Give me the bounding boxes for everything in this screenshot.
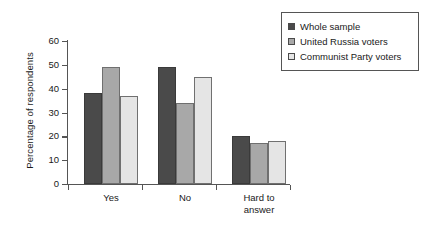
x-axis-label-line: Hard to	[211, 192, 307, 204]
y-axis-tick-label: 20	[33, 130, 59, 141]
bar	[194, 77, 212, 184]
legend-item: Whole sample	[288, 19, 412, 33]
bar	[268, 141, 286, 184]
y-axis-tick-label: 40	[33, 83, 59, 94]
bar-group	[84, 41, 138, 184]
legend-label-communist-party-voters: Communist Party voters	[300, 51, 401, 62]
bar	[176, 103, 194, 184]
x-axis-line	[67, 184, 290, 185]
y-axis-tick	[62, 136, 67, 137]
y-axis-tick-label: 60	[33, 35, 59, 46]
y-axis-tick	[62, 89, 67, 90]
x-axis-separator	[68, 185, 69, 190]
x-axis-separator	[216, 185, 217, 190]
bar	[120, 96, 138, 184]
legend: Whole sample United Russia voters Commun…	[281, 12, 419, 71]
legend-swatch-communist-party-voters	[288, 53, 295, 60]
legend-item: Communist Party voters	[288, 49, 412, 63]
bar	[158, 67, 176, 184]
y-axis-tick	[62, 41, 67, 42]
y-axis-tick	[62, 65, 67, 66]
legend-label-united-russia-voters: United Russia voters	[300, 36, 388, 47]
y-axis-tick	[62, 160, 67, 161]
x-axis-separator	[142, 185, 143, 190]
plot-area	[68, 41, 290, 184]
y-axis-tick-label: 10	[33, 154, 59, 165]
x-axis-separator	[290, 185, 291, 190]
legend-swatch-united-russia-voters	[288, 38, 295, 45]
bar	[232, 136, 250, 184]
y-axis-tick	[62, 184, 67, 185]
bar	[102, 67, 120, 184]
x-axis-label: Hard toanswer	[211, 192, 307, 216]
bar-group	[232, 41, 286, 184]
legend-label-whole-sample: Whole sample	[300, 21, 360, 32]
y-axis-tick-label: 50	[33, 59, 59, 70]
y-axis-tick	[62, 113, 67, 114]
bar-chart: Percentage of respondents 0102030405060 …	[0, 0, 431, 234]
y-axis-tick-label: 30	[33, 107, 59, 118]
legend-swatch-whole-sample	[288, 23, 295, 30]
bar	[84, 93, 102, 184]
bar-group	[158, 41, 212, 184]
x-axis-label-line: answer	[211, 204, 307, 216]
bar	[250, 143, 268, 184]
y-axis-tick-label: 0	[33, 178, 59, 189]
legend-item: United Russia voters	[288, 34, 412, 48]
